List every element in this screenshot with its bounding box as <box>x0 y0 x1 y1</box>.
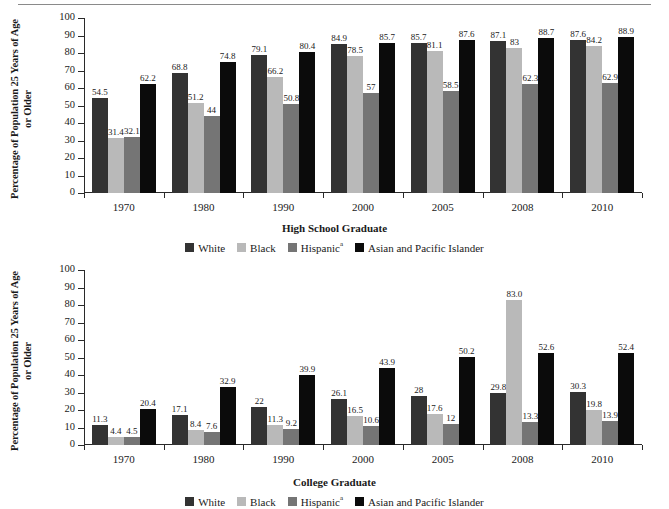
legend-footnote-marker: a <box>340 240 343 248</box>
bar-value-label: 17.6 <box>427 403 443 413</box>
bar-value-label: 83 <box>510 37 519 47</box>
x-tick-label: 2010 <box>572 453 632 465</box>
bar-value-label: 88.9 <box>618 26 634 36</box>
bar-value-label: 66.2 <box>267 66 283 76</box>
y-tick: 100 <box>78 270 84 271</box>
bar-value-label: 7.6 <box>206 421 217 431</box>
bar: 7.6 <box>204 432 220 445</box>
bar-value-label: 68.8 <box>172 62 188 72</box>
y-tick-label: 30 <box>49 134 75 145</box>
bar: 68.8 <box>172 73 188 193</box>
y-tick-label: 20 <box>49 151 75 162</box>
bar-value-label: 74.8 <box>220 51 236 61</box>
bar: 83.0 <box>506 300 522 445</box>
legend-swatch-icon <box>288 497 297 506</box>
bar-value-label: 84.9 <box>331 33 347 43</box>
x-tick-label: 1980 <box>174 453 234 465</box>
bar-value-label: 57 <box>367 82 376 92</box>
bar: 29.8 <box>490 393 506 445</box>
y-tick-label: 90 <box>49 281 75 292</box>
x-tick <box>483 445 484 450</box>
y-axis-line-cg <box>84 270 85 445</box>
legend-item: Black <box>237 241 276 254</box>
bar: 9.2 <box>283 429 299 445</box>
y-tick-label: 0 <box>49 186 75 197</box>
legend-item: Asian and Pacific Islander <box>355 495 484 508</box>
bar-value-label: 9.2 <box>286 418 297 428</box>
bar: 30.3 <box>570 392 586 445</box>
x-tick-label: 1990 <box>253 201 313 213</box>
bar-value-label: 30.3 <box>570 381 586 391</box>
bar: 57 <box>363 93 379 193</box>
bar-value-label: 88.7 <box>539 27 555 37</box>
bar: 39.9 <box>299 375 315 445</box>
x-tick-label: 2008 <box>492 453 552 465</box>
bar-value-label: 83.0 <box>507 289 523 299</box>
y-tick: 70 <box>78 71 84 72</box>
bar: 74.8 <box>220 62 236 193</box>
legend-swatch-icon <box>237 497 246 506</box>
bar-value-label: 85.7 <box>411 32 427 42</box>
bar-value-label: 79.1 <box>251 44 267 54</box>
bar-value-label: 20.4 <box>140 398 156 408</box>
legend-swatch-icon <box>355 243 364 252</box>
bar-value-label: 52.4 <box>618 342 634 352</box>
bar: 80.4 <box>299 52 315 193</box>
bar-value-label: 29.8 <box>491 382 507 392</box>
y-tick: 80 <box>78 53 84 54</box>
bar: 13.3 <box>522 422 538 445</box>
y-axis-title-cg: Percentage of Population 25 Years of Age… <box>8 270 48 452</box>
y-tick: 60 <box>78 340 84 341</box>
bar: 50.8 <box>283 104 299 193</box>
x-tick <box>642 193 643 198</box>
bar: 62.3 <box>522 84 538 193</box>
y-tick: 30 <box>78 141 84 142</box>
y-tick-label: 0 <box>49 438 75 449</box>
legend-cg: WhiteBlackHispanicaAsian and Pacific Isl… <box>0 494 669 509</box>
x-tick <box>243 193 244 198</box>
bar: 52.4 <box>618 353 634 445</box>
bar: 17.6 <box>427 414 443 445</box>
legend-footnote-marker: a <box>340 494 343 502</box>
bar: 52.6 <box>538 353 554 445</box>
bar: 62.2 <box>140 84 156 193</box>
legend-swatch-icon <box>355 497 364 506</box>
x-tick-label: 1990 <box>253 453 313 465</box>
bar-value-label: 52.6 <box>539 342 555 352</box>
bar-value-label: 32.1 <box>124 126 140 136</box>
y-tick: 20 <box>78 410 84 411</box>
bar: 84.2 <box>586 46 602 193</box>
bar-value-label: 84.2 <box>586 35 602 45</box>
bar: 87.6 <box>459 40 475 193</box>
y-tick-label: 100 <box>49 263 75 274</box>
bar: 8.4 <box>188 430 204 445</box>
x-tick <box>562 193 563 198</box>
x-tick-label: 2005 <box>413 453 473 465</box>
legend-label: Hispanic <box>301 497 340 509</box>
y-tick: 100 <box>78 18 84 19</box>
bar: 32.1 <box>124 137 140 193</box>
bar: 79.1 <box>251 55 267 193</box>
x-tick-label: 2005 <box>413 201 473 213</box>
bar-value-label: 62.2 <box>140 73 156 83</box>
bar: 81.1 <box>427 51 443 193</box>
bar: 88.9 <box>618 37 634 193</box>
y-tick: 70 <box>78 323 84 324</box>
bar: 17.1 <box>172 415 188 445</box>
bar: 51.2 <box>188 103 204 193</box>
y-tick: 10 <box>78 176 84 177</box>
y-tick-label: 90 <box>49 29 75 40</box>
bar-value-label: 13.3 <box>523 411 539 421</box>
y-tick: 30 <box>78 393 84 394</box>
legend-item: Hispanica <box>288 240 343 254</box>
x-tick <box>323 193 324 198</box>
y-tick-label: 20 <box>49 403 75 414</box>
y-tick-label: 10 <box>49 169 75 180</box>
x-tick <box>562 445 563 450</box>
bar-value-label: 31.4 <box>108 127 124 137</box>
bar-value-label: 16.5 <box>347 405 363 415</box>
x-tick <box>164 193 165 198</box>
legend-swatch-icon <box>185 497 194 506</box>
bar-value-label: 32.9 <box>220 376 236 386</box>
legend-swatch-icon <box>288 243 297 252</box>
